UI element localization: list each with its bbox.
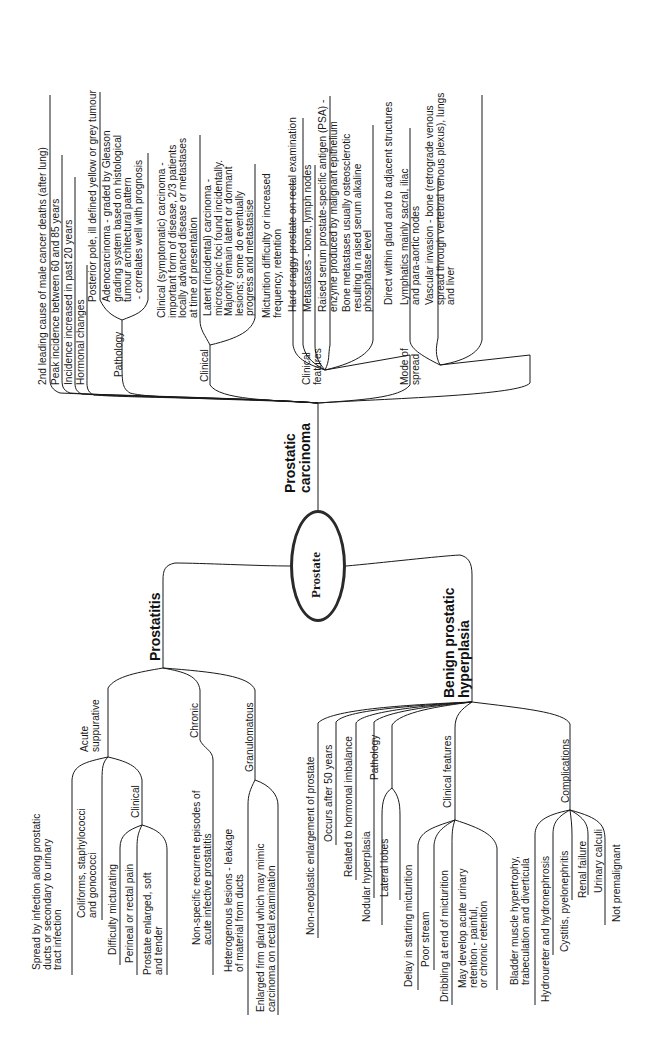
bph-title[interactable]: Benign prostatic hyperplasia <box>442 588 472 698</box>
carcinoma-fact: Hormonal changes <box>76 299 87 385</box>
prostatitis-acute-item: Spread by infection along prostatic duct… <box>32 814 64 970</box>
bph-clinical-feature: Dribbling at end of micturition <box>440 870 451 1002</box>
mind-map-canvas: Prostate Prostatic carcinoma 2nd leading… <box>0 0 663 1043</box>
carcinoma-clinical-feature: Hard craggy prostate on rectal examinati… <box>288 117 299 312</box>
bph-complication: Hydroureter and hydronephrosis <box>541 856 552 1002</box>
bph-pathology-label[interactable]: Pathology <box>370 735 381 780</box>
bph-pathology-item: Nodular hyperplasia <box>362 831 373 922</box>
carcinoma-pathology-label[interactable]: Pathology <box>114 332 125 377</box>
bph-complication: Urinary calculi <box>594 829 605 893</box>
prostatitis-title[interactable]: Prostatitis <box>148 593 163 661</box>
carcinoma-spread-item: Direct within gland and to adjacent stru… <box>384 102 395 305</box>
bph-clinical-feature: Delay in starting micturition <box>404 865 415 987</box>
carcinoma-spread-item: Vascular invasion - bone (retrograde ven… <box>425 93 457 305</box>
prostatitis-granulomatous-item: Heterogenous lesions - leakage of materi… <box>224 829 245 972</box>
carcinoma-fact: Incidence increased in past 20 years <box>64 220 75 385</box>
carcinoma-spread-label[interactable]: Mode of spread <box>400 348 421 385</box>
carcinoma-fact: 2nd leading cause of male cancer deaths … <box>38 147 49 385</box>
prostatitis-clinical-item: Perineal or rectal pain <box>125 864 136 963</box>
prostatitis-clinical-item: Prostate enlarged, soft and tender <box>143 872 164 975</box>
carcinoma-clinical-label[interactable]: Clinical <box>200 349 211 382</box>
carcinoma-clinical-feature: Metastases - bone, lymph nodes <box>303 165 314 312</box>
bph-clinical-features-label[interactable]: Clinical features <box>443 736 454 808</box>
carcinoma-clinical-item: Clinical (symptomatic) carcinoma - impor… <box>157 138 199 318</box>
bph-pathology-item: Lateral lobes <box>380 839 391 897</box>
bph-complication: Renal failure <box>578 841 589 898</box>
carcinoma-clinical-feature: Micturition difficulty or increased freq… <box>262 173 283 318</box>
bph-clinical-feature: May develop acute urinary retention - pa… <box>458 869 490 988</box>
prostatitis-acute-item: Difficulty micturating <box>108 864 119 955</box>
carcinoma-clinical-item: Latent (incidental) carcinoma - microsco… <box>203 160 256 316</box>
bph-fact: Occurs after 50 years <box>324 745 335 842</box>
prostatitis-chronic-item: Non-specific recurrent episodes of acute… <box>192 790 213 945</box>
bph-complication: Cystitis, pyelonephritis <box>560 851 571 952</box>
bph-complications-label[interactable]: Complications <box>561 739 572 803</box>
bph-clinical-feature: Poor stream <box>421 912 432 967</box>
prostatitis-granulomatous-item: Enlarged firm gland which may mimic carc… <box>256 843 277 1012</box>
carcinoma-pathology-item: Adenocarcinoma - graded by Gleason gradi… <box>102 130 144 302</box>
prostatitis-chronic-label[interactable]: Chronic <box>190 703 201 738</box>
prostatitis-acute-item: Coliforms, staphylococci and gonococci <box>77 808 98 918</box>
bph-fact: Related to hormonal imbalance <box>344 736 355 877</box>
prostatitis-acute-clinical-label[interactable]: Clinical <box>131 785 142 818</box>
prostate-label: Prostate <box>311 552 322 598</box>
bph-fact: Non-neoplastic enlargement of prostate <box>306 757 317 935</box>
prostatitis-granulomatous-label[interactable]: Granulomatous <box>245 702 256 772</box>
carcinoma-title[interactable]: Prostatic carcinoma <box>283 423 313 493</box>
bph-complication: Not premalignant <box>612 844 623 922</box>
bph-complication: Bladder muscle hypertrophy, trabeculatio… <box>510 856 531 985</box>
carcinoma-clinical-feature: Bone metastases usually osteosclerotic r… <box>342 134 374 312</box>
carcinoma-spread-item: Lymphatics mainly sacral, iliac and para… <box>400 168 421 305</box>
carcinoma-clinical-features-label[interactable]: Clinical features <box>302 348 323 385</box>
prostatitis-acute-label[interactable]: Acute suppurative <box>80 699 101 752</box>
carcinoma-pathology-item: Posterior pole, ill defined yellow or gr… <box>88 90 99 302</box>
carcinoma-fact: Peak incidence between 60 and 85 years <box>51 199 62 385</box>
carcinoma-clinical-feature: Raised serum prostate-specific antigen (… <box>318 100 339 312</box>
